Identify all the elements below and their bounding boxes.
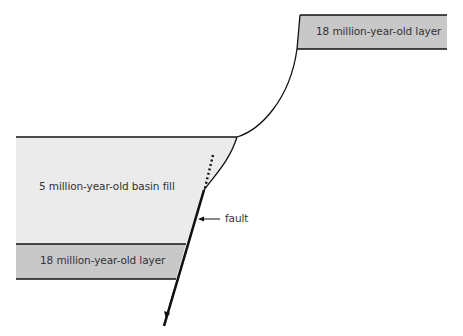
cross-section-diagram [0,0,463,336]
upper-layer-label: 18 million-year-old layer [316,25,441,37]
escarpment-curve [237,15,300,137]
fault-pointer-arrow [198,217,220,222]
basin-fill-label: 5 million-year-old basin fill [39,180,175,192]
fault-label: fault [225,212,248,224]
lower-layer-label: 18 million-year-old layer [40,254,165,266]
